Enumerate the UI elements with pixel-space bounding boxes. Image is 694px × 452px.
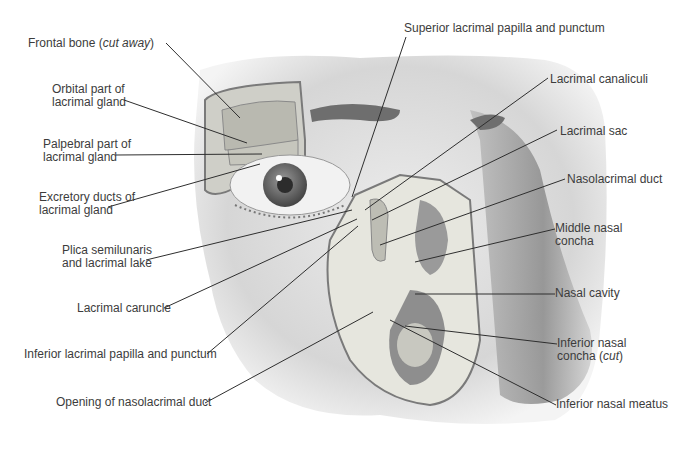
label-line: and lacrimal lake bbox=[62, 257, 152, 270]
label-text: Inferior nasal meatus bbox=[556, 397, 668, 411]
label-text: Inferior lacrimal papilla and punctum bbox=[24, 347, 217, 361]
lacrimal-apparatus-diagram: Frontal bone (cut away) Orbital part of … bbox=[0, 0, 694, 452]
label-line: lacrimal gland bbox=[39, 204, 135, 217]
label-line: lacrimal gland bbox=[52, 96, 126, 109]
label-orbital-part: Orbital part of lacrimal gland bbox=[52, 83, 126, 109]
lacrimal-sac-shape bbox=[370, 199, 388, 261]
label-frontal-bone: Frontal bone (cut away) bbox=[28, 37, 154, 50]
label-inferior-papilla: Inferior lacrimal papilla and punctum bbox=[24, 348, 217, 361]
label-nasal-cavity: Nasal cavity bbox=[555, 287, 620, 300]
label-plica-semilunaris: Plica semilunaris and lacrimal lake bbox=[62, 244, 152, 270]
label-palpebral-part: Palpebral part of lacrimal gland bbox=[43, 138, 131, 164]
label-text: Nasal cavity bbox=[555, 286, 620, 300]
label-lacrimal-caruncle: Lacrimal caruncle bbox=[77, 302, 171, 315]
label-italic: cut away bbox=[103, 36, 150, 50]
label-line: lacrimal gland bbox=[43, 151, 131, 164]
label-text: Nasolacrimal duct bbox=[567, 172, 662, 186]
label-inferior-nasal-concha: Inferior nasal concha (cut) bbox=[557, 337, 626, 363]
label-text: Superior lacrimal papilla and punctum bbox=[404, 21, 605, 35]
label-text: concha ( bbox=[557, 349, 603, 363]
label-text: ) bbox=[619, 349, 623, 363]
label-excretory-ducts: Excretory ducts of lacrimal gland bbox=[39, 191, 135, 217]
label-inferior-nasal-meatus: Inferior nasal meatus bbox=[556, 398, 668, 411]
inferior-concha-shape bbox=[397, 323, 433, 367]
label-line: concha bbox=[555, 235, 622, 248]
label-middle-nasal-concha: Middle nasal concha bbox=[555, 222, 622, 248]
label-text: Lacrimal sac bbox=[560, 124, 627, 138]
label-superior-papilla: Superior lacrimal papilla and punctum bbox=[404, 22, 605, 35]
label-text: Lacrimal canaliculi bbox=[550, 72, 648, 86]
label-lacrimal-canaliculi: Lacrimal canaliculi bbox=[550, 73, 648, 86]
label-line: concha (cut) bbox=[557, 350, 626, 363]
label-nasolacrimal-duct: Nasolacrimal duct bbox=[567, 173, 662, 186]
label-text: Lacrimal caruncle bbox=[77, 301, 171, 315]
label-opening-nasolacrimal-duct: Opening of nasolacrimal duct bbox=[56, 396, 211, 409]
label-text: ) bbox=[150, 36, 154, 50]
label-lacrimal-sac: Lacrimal sac bbox=[560, 125, 627, 138]
label-text: Frontal bone ( bbox=[28, 36, 103, 50]
label-italic: cut bbox=[603, 349, 619, 363]
label-text: Opening of nasolacrimal duct bbox=[56, 395, 211, 409]
